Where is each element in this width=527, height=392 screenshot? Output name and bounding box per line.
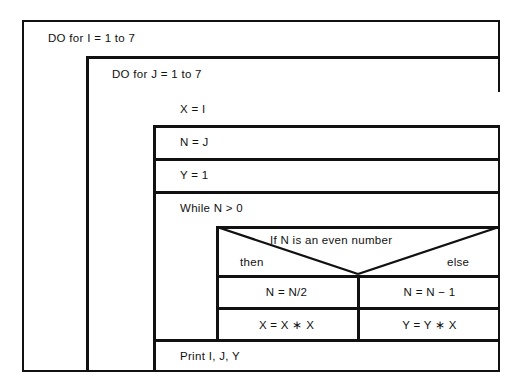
rule-end-of-while-body <box>153 339 500 342</box>
rule-after-n-assign <box>153 158 500 161</box>
rule-after-x-assign <box>153 125 500 128</box>
condition-label: If N is an even number <box>270 234 392 246</box>
statement-label-n-assign: N = J <box>180 136 209 148</box>
inner-loop-label: DO for J = 1 to 7 <box>112 68 202 80</box>
else-branch-label-row2: Y = Y ∗ X <box>359 318 500 332</box>
condition-else-label: else <box>447 256 469 268</box>
outer-loop-label: DO for I = 1 to 7 <box>48 32 135 44</box>
statement-label-y-assign: Y = 1 <box>180 169 208 181</box>
structogram-canvas: DO for I = 1 to 7 DO for J = 1 to 7 X = … <box>0 0 527 392</box>
rule-between-branch-rows <box>216 307 500 310</box>
then-branch-label-row2: X = X ∗ X <box>216 318 357 332</box>
rule-after-y-assign <box>153 191 500 194</box>
else-branch-label-row1: N = N − 1 <box>359 286 500 298</box>
outer-loop-spine <box>86 56 89 372</box>
inner-loop-spine <box>153 92 156 372</box>
while-loop-label: While N > 0 <box>180 202 243 214</box>
print-statement-label: Print I, J, Y <box>180 350 240 362</box>
statement-label-x-assign: X = I <box>180 103 205 115</box>
then-branch-label-row1: N = N/2 <box>216 286 357 298</box>
outer-loop-header-rule <box>86 56 500 59</box>
condition-then-label: then <box>240 256 264 268</box>
